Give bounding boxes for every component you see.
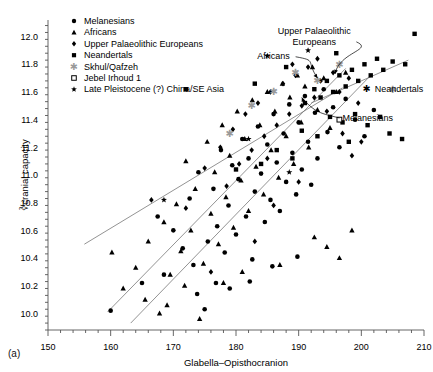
annotation-melanesians-label: Melanesians xyxy=(343,113,394,123)
data-point-triangle xyxy=(133,265,138,270)
data-point-triangle xyxy=(157,310,162,315)
data-point-triangle xyxy=(349,227,354,232)
data-point-triangle xyxy=(193,186,198,191)
data-point-triangle xyxy=(268,147,273,152)
data-point-circle xyxy=(265,142,270,147)
data-point-diamond xyxy=(184,205,189,211)
data-point-square xyxy=(347,140,351,144)
data-point-triangle xyxy=(221,280,226,285)
data-point-square xyxy=(400,137,404,141)
data-point-circle xyxy=(171,228,176,233)
data-point-triangle xyxy=(306,144,311,149)
data-point-diamond xyxy=(356,100,361,106)
data-point-square xyxy=(312,87,316,91)
data-point-triangle xyxy=(161,219,166,224)
data-point-square xyxy=(300,129,304,133)
data-point-circle xyxy=(155,214,160,219)
y-tick-label: 10.6 xyxy=(20,226,38,236)
data-point-triangle xyxy=(312,234,317,239)
data-point-diamond xyxy=(72,41,76,47)
series-late-pleistocene-china-se-asia xyxy=(161,47,311,202)
data-point-circle xyxy=(234,232,239,237)
data-point-square xyxy=(365,123,369,127)
data-point-triangle xyxy=(71,30,76,35)
data-point-triangle xyxy=(205,139,210,144)
series-melanesians xyxy=(108,87,376,313)
regression-lines xyxy=(84,60,408,323)
data-point-circle xyxy=(227,286,232,291)
y-tick-label: 10.0 xyxy=(20,309,38,319)
data-point-diamond xyxy=(306,64,311,70)
x-tick-label: 200 xyxy=(354,342,369,352)
data-point-square xyxy=(350,68,354,72)
data-point-circle xyxy=(195,292,200,297)
data-point-circle xyxy=(315,156,320,161)
data-point-circle xyxy=(343,97,348,102)
legend-label: Skhul/Qafzeh xyxy=(84,62,138,72)
data-point-triangle xyxy=(164,302,169,307)
scatter-plot: 15016017018019020021010.010.210.410.610.… xyxy=(0,0,433,372)
data-point-triangle xyxy=(121,286,126,291)
x-axis-label: Glabella–Opisthocranion xyxy=(184,357,288,368)
data-point-triangle xyxy=(146,239,151,244)
data-point-circle xyxy=(108,308,113,313)
data-point-circle xyxy=(331,105,336,110)
x-tick-label: 190 xyxy=(291,342,306,352)
data-point-square xyxy=(334,51,338,55)
data-point-asterisk: ✱ xyxy=(226,128,234,139)
legend-label: Neandertals xyxy=(84,50,133,60)
data-point-square xyxy=(325,79,329,83)
africans-line xyxy=(108,68,346,312)
data-point-circle xyxy=(259,171,264,176)
data-point-triangle xyxy=(208,211,213,216)
data-point-square xyxy=(369,73,373,77)
data-point-circle xyxy=(226,203,231,208)
data-point-square xyxy=(331,90,335,94)
data-point-triangle xyxy=(109,250,114,255)
annotation-upe-line2: Europeans xyxy=(293,37,337,47)
legend-label: Late Pleistocene (?) China/SE Asia xyxy=(84,84,224,94)
data-point-star xyxy=(305,47,311,53)
x-tick-label: 180 xyxy=(228,342,243,352)
data-point-square xyxy=(337,73,341,77)
data-point-diamond xyxy=(340,131,345,137)
data-point-circle xyxy=(196,170,201,175)
data-point-triangle xyxy=(291,161,296,166)
data-point-asterisk: ✱ xyxy=(247,100,255,111)
data-point-circle xyxy=(290,151,295,156)
upper-palaeolithic-line xyxy=(131,75,371,323)
data-point-circle xyxy=(303,94,308,99)
data-point-square xyxy=(381,68,385,72)
data-point-diamond xyxy=(359,139,364,145)
data-point-triangle xyxy=(174,201,179,206)
data-point-circle xyxy=(187,196,192,201)
data-point-circle xyxy=(214,281,219,286)
data-point-diamond xyxy=(325,108,330,114)
y-tick-label: 10.4 xyxy=(20,253,38,263)
data-point-diamond xyxy=(347,75,352,81)
data-point-circle xyxy=(202,307,207,312)
data-point-square xyxy=(362,62,366,66)
data-point-triangle xyxy=(182,283,187,288)
data-point-circle xyxy=(274,160,279,165)
y-tick-label: 11.6 xyxy=(21,87,38,97)
data-point-diamond xyxy=(296,179,301,185)
legend-label: Melanesians xyxy=(84,16,135,26)
data-point-circle xyxy=(362,134,367,139)
data-point-diamond xyxy=(350,153,355,159)
data-point-circle xyxy=(191,263,196,268)
y-tick-label: 11.4 xyxy=(21,115,38,125)
figure-panel-a: 15016017018019020021010.010.210.410.610.… xyxy=(0,0,433,372)
data-point-diamond xyxy=(243,111,248,117)
data-point-triangle xyxy=(327,125,332,130)
series-neandertals xyxy=(184,32,417,172)
data-point-circle xyxy=(337,145,342,150)
x-tick-label: 160 xyxy=(103,342,118,352)
data-point-triangle xyxy=(231,225,236,230)
data-point-circle xyxy=(372,108,377,113)
y-tick-label: 11.8 xyxy=(21,59,38,69)
data-point-circle xyxy=(211,187,216,192)
legend-label: Upper Palaeolithic Europeans xyxy=(84,39,204,49)
data-point-triangle xyxy=(324,244,329,249)
panel-label: (a) xyxy=(8,348,20,359)
